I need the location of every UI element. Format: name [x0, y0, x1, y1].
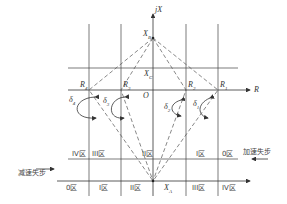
delta1-label: δ1 — [193, 100, 199, 110]
dashed-r1 — [153, 38, 218, 181]
dashed-r3 — [121, 38, 153, 181]
lower-zone-0: 0区 — [66, 185, 77, 192]
upper-zone-iv: IV区 — [72, 151, 86, 158]
xc-label: XC — [144, 70, 152, 80]
arc-delta4 — [77, 97, 96, 118]
xc-sub: C — [149, 75, 152, 80]
xb-sub: B — [148, 35, 151, 40]
decelerating-out-of-step-label: 减速失步 — [18, 170, 46, 177]
delta3-label: δ3 — [103, 97, 109, 107]
lower-zone-ii: II区 — [130, 185, 141, 192]
delta4-label: δ4 — [69, 96, 75, 106]
d4-sub: 4 — [73, 101, 76, 106]
xb-label: XB — [143, 30, 151, 40]
r3-sub: 3 — [128, 86, 131, 91]
r1-label: R1 — [220, 81, 227, 91]
jx-axis-label: jX — [155, 6, 162, 14]
xa-label: XA — [164, 184, 172, 194]
origin-label: O — [143, 92, 149, 100]
upper-zone-ii: II区 — [142, 151, 153, 158]
d1-sub: 1 — [197, 105, 200, 110]
r-axis-label: R — [254, 86, 259, 94]
vertical-lines — [89, 24, 218, 196]
lower-zone-i: I区 — [99, 185, 108, 192]
delta-arcs — [77, 97, 210, 118]
xb-point — [152, 37, 155, 40]
lower-zone-iii: III区 — [192, 185, 205, 192]
upper-zone-0: 0区 — [222, 151, 233, 158]
delta2-label: δ2 — [164, 103, 170, 113]
accelerating-out-of-step-label: 加速失步 — [243, 149, 271, 156]
arc-delta3 — [111, 97, 125, 118]
lower-zone-iv: IV区 — [222, 185, 236, 192]
r4-sub: 4 — [85, 86, 88, 91]
r1-sub: 1 — [225, 86, 228, 91]
xa-point — [152, 180, 155, 183]
r2-sub: 2 — [193, 86, 196, 91]
upper-zone-i: I区 — [196, 151, 205, 158]
d3-sub: 3 — [107, 102, 110, 107]
d2-sub: 2 — [168, 108, 171, 113]
r4-label: R4 — [80, 81, 87, 91]
upper-zone-iii: III区 — [92, 151, 105, 158]
r2-label: R2 — [188, 81, 195, 91]
xa-sub: A — [169, 189, 172, 194]
r3-label: R3 — [123, 81, 130, 91]
